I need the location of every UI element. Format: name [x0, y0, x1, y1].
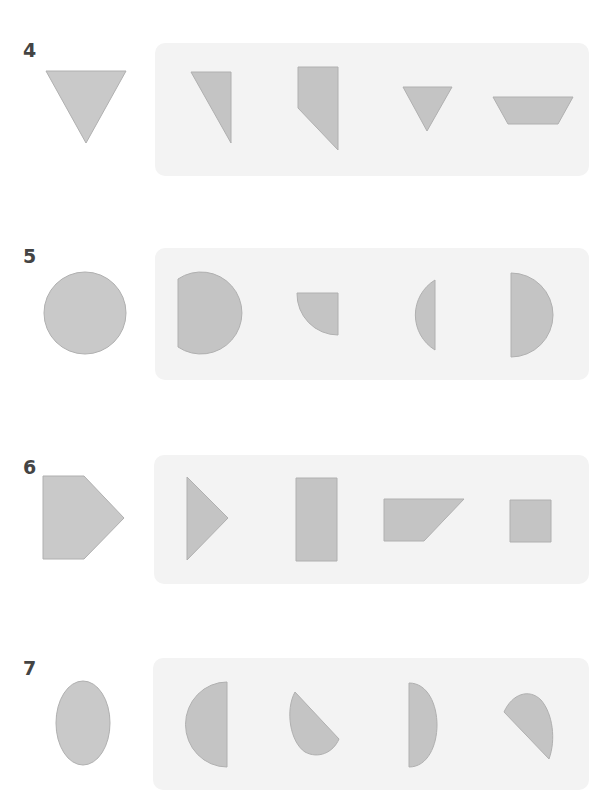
option-6c-right-trapezoid[interactable] [384, 499, 464, 541]
option-4c-small-triangle[interactable] [403, 87, 452, 131]
option-6a-triangle[interactable] [187, 477, 228, 560]
shapes-layer [0, 0, 601, 791]
option-7d-diagonal-half-ellipse-2[interactable] [504, 694, 553, 759]
target-ellipse [56, 681, 110, 765]
option-7c-half-ellipse-right[interactable] [409, 683, 437, 767]
option-6d-square[interactable] [510, 500, 551, 542]
option-7a-half-ellipse-left[interactable] [186, 682, 227, 767]
option-5a-large-segment[interactable] [178, 272, 242, 354]
option-5d-semicircle[interactable] [511, 273, 553, 357]
target-inverted-triangle [46, 71, 126, 143]
target-circle [44, 272, 126, 354]
option-4b-cut-pentagon[interactable] [298, 67, 338, 150]
option-5b-quarter-circle[interactable] [297, 293, 338, 335]
option-5c-circle-segment[interactable] [415, 280, 435, 350]
option-6b-tall-rectangle[interactable] [296, 478, 337, 561]
option-4a-right-triangle[interactable] [191, 72, 231, 143]
option-4d-trapezoid[interactable] [493, 97, 573, 124]
option-7b-diagonal-half-ellipse[interactable] [290, 692, 339, 755]
target-pentagon-arrow [43, 476, 124, 559]
